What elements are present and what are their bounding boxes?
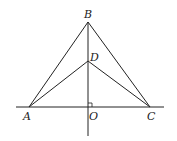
geometry-diagram: B D A O C bbox=[0, 0, 177, 141]
label-C: C bbox=[147, 110, 156, 123]
label-D: D bbox=[89, 51, 99, 64]
label-A: A bbox=[22, 110, 31, 123]
right-angle-marker bbox=[88, 103, 92, 107]
segment-AB bbox=[29, 22, 88, 107]
label-B: B bbox=[83, 8, 92, 21]
segment-BC bbox=[88, 22, 150, 107]
segment-AD bbox=[29, 61, 88, 107]
label-O: O bbox=[89, 110, 98, 123]
segment-DC bbox=[88, 61, 150, 107]
